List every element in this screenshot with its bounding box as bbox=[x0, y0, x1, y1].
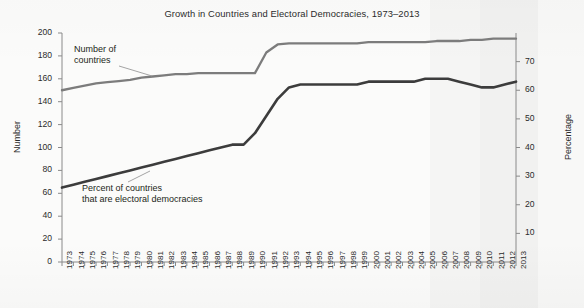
y-tick-label-right: 70 bbox=[525, 56, 551, 66]
data-series-group bbox=[62, 39, 516, 188]
x-tick-label: 1999 bbox=[360, 251, 369, 269]
x-tick-label: 1984 bbox=[190, 251, 199, 269]
y-tick-label-left: 180 bbox=[26, 50, 52, 60]
x-tick-label: 1998 bbox=[349, 251, 358, 269]
x-tick-label: 2003 bbox=[406, 251, 415, 269]
y-tick-label-right: 60 bbox=[525, 84, 551, 94]
x-tick-label: 2013 bbox=[519, 251, 528, 269]
x-tick-label: 1978 bbox=[122, 251, 131, 269]
x-tick-label: 1992 bbox=[281, 251, 290, 269]
x-tick-label: 1996 bbox=[326, 251, 335, 269]
x-tick-label: 1986 bbox=[213, 251, 222, 269]
y-tick-label-left: 80 bbox=[26, 164, 52, 174]
x-tick-label: 1973 bbox=[65, 251, 74, 269]
series-annotation-democracies: Percent of countries that are electoral … bbox=[82, 183, 203, 205]
x-tick-label: 2004 bbox=[417, 251, 426, 269]
x-tick-label: 1994 bbox=[304, 251, 313, 269]
series-annotation-countries: Number of countries bbox=[74, 44, 116, 66]
series-line-number-of-countries bbox=[62, 39, 516, 91]
x-tick-label: 1997 bbox=[338, 251, 347, 269]
x-tick-label: 2011 bbox=[497, 252, 506, 269]
x-tick-label: 1982 bbox=[167, 251, 176, 269]
annotation-leader-lines bbox=[119, 66, 152, 182]
x-tick-label: 1975 bbox=[88, 251, 97, 269]
x-tick-label: 2006 bbox=[440, 251, 449, 269]
y-tick-label-left: 120 bbox=[26, 119, 52, 129]
x-tick-label: 1976 bbox=[99, 251, 108, 269]
series-line-percent-democracies bbox=[62, 79, 516, 188]
x-tick-label: 1995 bbox=[315, 251, 324, 269]
series-annotation-countries-line1: Number of bbox=[74, 44, 116, 55]
x-tick-label: 1983 bbox=[179, 251, 188, 269]
x-tick-label: 1974 bbox=[77, 251, 86, 269]
y-tick-label-right: 20 bbox=[525, 199, 551, 209]
series-annotation-democracies-line1: Percent of countries bbox=[82, 183, 203, 194]
axes-group bbox=[62, 33, 516, 262]
x-tick-label: 1989 bbox=[247, 251, 256, 269]
y-tick-label-left: 140 bbox=[26, 96, 52, 106]
x-tick-label: 1981 bbox=[156, 251, 165, 269]
y-tick-label-left: 160 bbox=[26, 73, 52, 83]
x-tick-label: 1990 bbox=[258, 251, 267, 269]
x-tick-label: 2009 bbox=[474, 251, 483, 269]
leader-line-countries bbox=[119, 66, 152, 76]
series-annotation-democracies-line2: that are electoral democracies bbox=[82, 194, 203, 205]
x-tick-label: 1991 bbox=[270, 251, 279, 269]
x-tick-label: 1979 bbox=[133, 251, 142, 269]
x-tick-label: 1987 bbox=[224, 251, 233, 269]
y-tick-label-left: 40 bbox=[26, 210, 52, 220]
x-tick-label: 2012 bbox=[508, 251, 517, 269]
series-annotation-countries-line2: countries bbox=[74, 55, 116, 66]
x-tick-label: 2000 bbox=[372, 251, 381, 269]
x-tick-label: 1985 bbox=[201, 251, 210, 269]
y-tick-label-left: 0 bbox=[26, 256, 52, 266]
y-tick-label-right: 10 bbox=[525, 227, 551, 237]
y-tick-label-right: 50 bbox=[525, 113, 551, 123]
x-tick-label: 1980 bbox=[145, 251, 154, 269]
leader-line-democracies bbox=[128, 171, 150, 182]
x-tick-label: 2001 bbox=[383, 251, 392, 269]
x-tick-label: 2008 bbox=[462, 251, 471, 269]
y-tick-label-right: 40 bbox=[525, 142, 551, 152]
tick-marks-group bbox=[58, 33, 520, 266]
y-tick-label-left: 200 bbox=[26, 27, 52, 37]
y-tick-label-left: 20 bbox=[26, 233, 52, 243]
y-axis-title-right: Percentage bbox=[563, 97, 573, 177]
x-tick-label: 2010 bbox=[485, 251, 494, 269]
y-tick-label-left: 100 bbox=[26, 142, 52, 152]
x-tick-label: 1988 bbox=[235, 251, 244, 269]
y-axis-title-left: Number bbox=[12, 102, 22, 172]
x-tick-label: 1977 bbox=[111, 251, 120, 269]
y-tick-label-left: 60 bbox=[26, 187, 52, 197]
x-tick-label: 2002 bbox=[394, 251, 403, 269]
x-tick-label: 1993 bbox=[292, 251, 301, 269]
x-tick-label: 2005 bbox=[428, 251, 437, 269]
chart-figure: Growth in Countries and Electoral Democr… bbox=[0, 0, 584, 308]
y-tick-label-right: 30 bbox=[525, 170, 551, 180]
x-tick-label: 2007 bbox=[451, 251, 460, 269]
